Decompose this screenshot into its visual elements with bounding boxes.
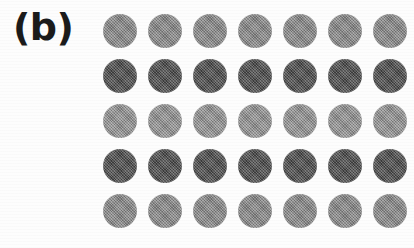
circle-marker xyxy=(148,104,182,138)
circle-marker xyxy=(238,149,272,183)
circle-marker xyxy=(328,14,362,48)
circle-marker xyxy=(148,194,182,228)
circle-marker xyxy=(103,14,137,48)
circle-marker xyxy=(148,59,182,93)
circle-row xyxy=(103,149,407,194)
circle-marker xyxy=(328,149,362,183)
circle-grid xyxy=(103,14,407,228)
circle-marker xyxy=(328,104,362,138)
circle-marker xyxy=(193,59,227,93)
circle-marker xyxy=(103,59,137,93)
figure-panel-b: (b) xyxy=(0,0,414,248)
circle-marker xyxy=(238,194,272,228)
circle-marker xyxy=(283,194,317,228)
circle-marker xyxy=(373,194,407,228)
circle-marker xyxy=(238,14,272,48)
circle-marker xyxy=(103,194,137,228)
circle-marker xyxy=(373,149,407,183)
circle-marker xyxy=(193,149,227,183)
circle-marker xyxy=(103,104,137,138)
circle-marker xyxy=(193,194,227,228)
circle-marker xyxy=(193,104,227,138)
circle-marker xyxy=(238,59,272,93)
circle-row xyxy=(103,14,407,59)
circle-marker xyxy=(283,59,317,93)
circle-marker xyxy=(148,14,182,48)
circle-marker xyxy=(193,14,227,48)
circle-marker xyxy=(373,14,407,48)
circle-marker xyxy=(328,59,362,93)
circle-marker xyxy=(238,104,272,138)
circle-marker xyxy=(103,149,137,183)
circle-marker xyxy=(148,149,182,183)
circle-row xyxy=(103,104,407,149)
panel-label: (b) xyxy=(13,6,73,48)
circle-marker xyxy=(373,59,407,93)
circle-marker xyxy=(283,149,317,183)
circle-marker xyxy=(328,194,362,228)
circle-marker xyxy=(283,104,317,138)
circle-marker xyxy=(283,14,317,48)
circle-row xyxy=(103,194,407,239)
circle-row xyxy=(103,59,407,104)
circle-marker xyxy=(373,104,407,138)
